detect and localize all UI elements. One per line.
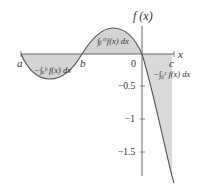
origin-label: 0: [131, 58, 136, 69]
y-tick-label-neg-1-5: −1.5: [118, 147, 135, 157]
integral-area-diagram: f (x) x a b 0 c −0.5 −1 −1.5 −∫ₐᵇ f(x) d…: [0, 0, 208, 187]
point-c-label: c: [169, 57, 174, 69]
point-a-label: a: [17, 57, 23, 69]
x-axis-label: x: [177, 48, 183, 60]
region-label-a-to-b: −∫ₐᵇ f(x) dx: [34, 65, 71, 76]
region-label-0-to-c: −∫₀ᶜ f(x) dx: [153, 69, 191, 80]
y-tick-label-neg-0-5: −0.5: [118, 81, 135, 91]
y-tick-label-neg-1: −1: [125, 114, 135, 124]
y-axis-label: f (x): [133, 9, 153, 23]
region-label-b-to-0: ∫ᵦ⁰ f(x) dx: [96, 36, 129, 47]
point-b-label: b: [80, 57, 86, 69]
